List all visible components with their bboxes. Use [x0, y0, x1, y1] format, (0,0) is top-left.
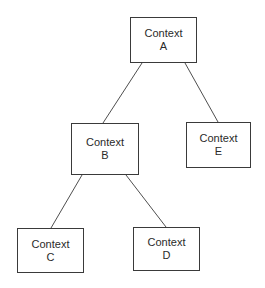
node-label: Context	[32, 238, 70, 251]
node-id: D	[163, 249, 171, 262]
node-label: Context	[148, 236, 186, 249]
node-context-c: Context C	[17, 228, 84, 273]
edge-a-b	[103, 63, 142, 123]
node-label: Context	[145, 27, 183, 40]
node-id: B	[101, 149, 108, 162]
node-id: C	[47, 251, 55, 264]
edge-a-e	[185, 63, 218, 122]
node-context-b: Context B	[71, 123, 139, 175]
edge-b-d	[126, 175, 166, 227]
context-tree-diagram: Context A Context B Context E Context C …	[0, 0, 265, 288]
node-label: Context	[200, 132, 238, 145]
edge-b-c	[51, 175, 82, 228]
node-id: E	[215, 145, 222, 158]
node-id: A	[160, 40, 167, 53]
node-context-e: Context E	[186, 122, 251, 168]
node-context-a: Context A	[130, 17, 197, 63]
node-label: Context	[86, 136, 124, 149]
node-context-d: Context D	[133, 227, 200, 271]
